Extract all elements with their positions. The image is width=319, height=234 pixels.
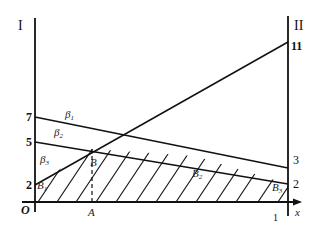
axis-right-label: II [294, 18, 304, 33]
point-a-label: A [87, 206, 95, 218]
point-b1-label: B1 [37, 179, 47, 193]
point-b-label: B [90, 156, 97, 168]
beta1-line [35, 117, 288, 168]
right-tick-11: 11 [291, 39, 302, 53]
origin-label: O [21, 203, 30, 217]
left-tick-7: 7 [26, 110, 32, 124]
x-axis-arrow-icon [293, 199, 302, 206]
left-tick-2: 2 [26, 178, 32, 192]
x-axis-label: x [294, 206, 300, 218]
beta2-label: β2 [53, 126, 63, 140]
right-tick-3: 3 [293, 153, 299, 167]
right-tick-2: 2 [293, 177, 299, 191]
axis-left-label: I [18, 18, 23, 33]
beta1-label: β1 [64, 108, 74, 122]
x-right-tick-label: 1 [273, 212, 278, 223]
diagram-canvas: I II x O A 1 7 5 2 11 3 2 β1 β2 β3 B B1 … [0, 0, 319, 234]
left-tick-5: 5 [26, 135, 32, 149]
beta3-label: β3 [39, 153, 49, 167]
